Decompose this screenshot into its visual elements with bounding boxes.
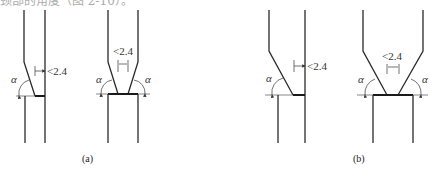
angle-label-left: α (358, 73, 364, 85)
figure-b1: <2.4 α (265, 10, 327, 143)
angle-arc-right (411, 79, 421, 95)
caption-b: (b) (353, 153, 365, 165)
dimension-label: <2.4 (113, 45, 133, 57)
angle-arc-left (101, 80, 112, 94)
angle-label-right: α (422, 73, 428, 85)
angle-label-right: α (145, 73, 151, 85)
dimension-label: <2.4 (382, 50, 402, 62)
figure-a1: <2.4 α (11, 10, 67, 143)
weld-transition-diagram: <2.4 α <2.4 α α <2.4 α (0, 0, 438, 173)
dimension-label: <2.4 (307, 60, 327, 72)
angle-label-left: α (96, 73, 102, 85)
angle-arc-left (365, 79, 375, 95)
figure-a2: <2.4 α α (96, 10, 151, 143)
angle-label: α (11, 73, 17, 85)
angle-arc (19, 80, 29, 96)
caption-a: (a) (82, 153, 93, 165)
upper-left-wall (24, 10, 35, 96)
figure-b2: <2.4 α α (357, 10, 428, 143)
angle-arc-right (134, 80, 145, 94)
dimension-label: <2.4 (47, 65, 67, 77)
upper-left-wall (269, 10, 293, 95)
angle-label: α (266, 72, 272, 84)
angle-arc (272, 78, 283, 95)
